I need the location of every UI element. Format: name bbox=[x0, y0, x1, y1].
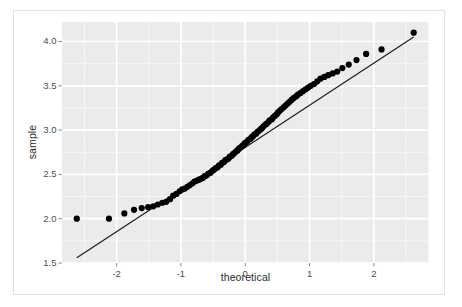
x-tick-label: -2 bbox=[102, 268, 132, 279]
y-tick-label: 2.5 bbox=[27, 168, 57, 179]
y-tick-label: 3.5 bbox=[27, 80, 57, 91]
x-tick-label: 0 bbox=[230, 268, 260, 279]
x-tick-label: 2 bbox=[359, 268, 389, 279]
x-tick-label: -1 bbox=[166, 268, 196, 279]
y-tick-label: 1.5 bbox=[27, 257, 57, 268]
qq-plot-figure: sample theoretical 1.52.02.53.03.54.0 -2… bbox=[0, 0, 462, 307]
x-tick-label: 1 bbox=[295, 268, 325, 279]
qq-plot-canvas bbox=[0, 0, 462, 307]
y-tick-label: 3.0 bbox=[27, 124, 57, 135]
y-tick-label: 2.0 bbox=[27, 213, 57, 224]
y-tick-label: 4.0 bbox=[27, 35, 57, 46]
